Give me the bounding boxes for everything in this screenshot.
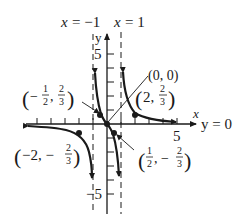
horizontal-asymptote-label: y = 0: [201, 116, 232, 132]
svg-text:1: 1: [43, 83, 48, 94]
svg-text:2: 2: [160, 83, 165, 94]
svg-text:2,: 2,: [143, 89, 154, 105]
svg-text:2: 2: [66, 142, 71, 153]
leader-neg-half: [82, 102, 99, 113]
y-axis-label: y: [95, 30, 102, 45]
label-neg2-neg-two-thirds: ( −2, − 2 3 ): [14, 142, 80, 169]
label-origin: (0, 0): [148, 68, 179, 84]
svg-text:1: 1: [147, 145, 152, 156]
svg-text:2: 2: [147, 158, 152, 169]
x-axis-label: x: [192, 106, 199, 121]
svg-text:): ): [168, 86, 175, 111]
svg-text:2: 2: [43, 96, 48, 107]
svg-text:): ): [73, 144, 80, 169]
rational-function-graph: x = −1 x = 1 y x y = 0 5 −5 5: [0, 0, 246, 224]
asymptote-label-right-rest: = 1: [125, 14, 145, 30]
label-half-neg-two-thirds: ( 1 2 , − 2 3 ): [138, 145, 191, 173]
label-2-two-thirds: ( 2, 2 3 ): [135, 83, 175, 111]
point-neg-half-two-thirds: [97, 112, 103, 118]
point-origin: [104, 121, 110, 127]
point-2-two-thirds: [132, 112, 138, 118]
svg-text:3: 3: [160, 96, 165, 107]
svg-text:−: −: [30, 89, 38, 104]
label-neg-half-two-thirds: ( − 1 2 , 2 3 ): [22, 83, 74, 111]
svg-text:2: 2: [177, 145, 182, 156]
svg-text:3: 3: [177, 158, 182, 169]
y-tick-5: 5: [94, 46, 102, 62]
asymptote-label-right: x: [113, 14, 121, 30]
point-neg2-neg-two-thirds: [76, 130, 82, 136]
x-tick-5: 5: [173, 128, 181, 144]
leader-half: [117, 135, 134, 150]
svg-text:−2, −: −2, −: [22, 147, 54, 163]
svg-text:2: 2: [59, 83, 64, 94]
svg-text:(: (: [14, 144, 21, 169]
svg-text:(: (: [135, 86, 142, 111]
svg-text:, −: , −: [154, 151, 169, 166]
asymptote-label-left-rest: = −1: [72, 14, 100, 30]
y-tick-neg5: −5: [86, 186, 102, 202]
svg-text:): ): [184, 148, 191, 173]
svg-text:(: (: [138, 148, 145, 173]
svg-text:(: (: [22, 86, 29, 111]
svg-text:,: ,: [50, 89, 54, 104]
svg-text:3: 3: [59, 96, 64, 107]
svg-text:): ): [67, 86, 74, 111]
svg-text:3: 3: [66, 155, 71, 166]
point-half-neg-two-thirds: [111, 130, 117, 136]
asymptote-label-left: x: [60, 14, 68, 30]
